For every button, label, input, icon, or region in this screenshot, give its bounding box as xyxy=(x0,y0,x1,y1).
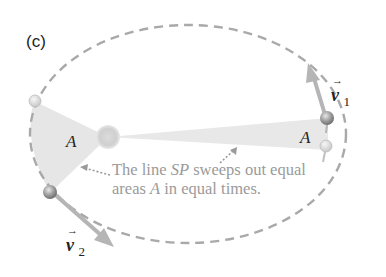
planet-tail xyxy=(323,152,325,162)
area-label-left: A xyxy=(66,132,76,152)
velocity-arrow-1 xyxy=(313,75,326,118)
planet-icon xyxy=(320,111,334,125)
orbit-diagram xyxy=(0,0,386,277)
pointer-arrowhead-right xyxy=(230,147,237,155)
pointer-arrowhead-left xyxy=(80,164,88,171)
pointer-arrow-left xyxy=(84,168,110,175)
area-label-right: A xyxy=(300,128,310,148)
velocity-subscript-1: 1 xyxy=(344,94,351,109)
velocity-subscript-2: 2 xyxy=(79,244,86,259)
caption-line-1: The line SP sweeps out equal xyxy=(112,160,306,179)
panel-label: (c) xyxy=(26,32,46,52)
velocity-label-2: → v 2 xyxy=(66,235,85,260)
planet-tail xyxy=(326,125,327,133)
velocity-symbol-2: v xyxy=(66,235,74,255)
planet-icon xyxy=(29,95,41,107)
caption-line-2: areas A in equal times. xyxy=(112,179,306,198)
planet-icon xyxy=(43,185,57,199)
sun-icon xyxy=(96,125,120,149)
planet-icon xyxy=(320,140,332,152)
swept-area-right xyxy=(108,118,328,150)
velocity-symbol-1: v xyxy=(331,85,339,105)
velocity-label-1: → v 1 xyxy=(331,85,350,110)
caption: The line SP sweeps out equal areas A in … xyxy=(112,160,306,198)
